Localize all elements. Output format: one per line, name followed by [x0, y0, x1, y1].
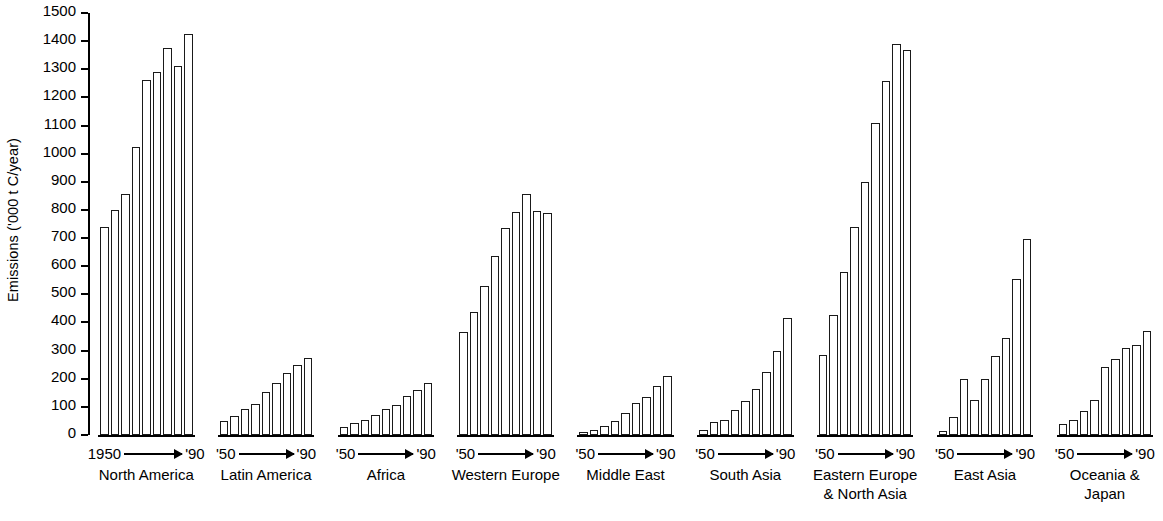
- bar[interactable]: [1023, 239, 1032, 435]
- bar[interactable]: [829, 315, 838, 435]
- bar[interactable]: [522, 194, 531, 435]
- bar[interactable]: [241, 409, 250, 435]
- bar[interactable]: [773, 351, 782, 435]
- bars: [340, 13, 433, 435]
- bar[interactable]: [1111, 359, 1120, 435]
- bar-group: [939, 13, 1032, 435]
- bar[interactable]: [413, 390, 422, 435]
- bar[interactable]: [871, 123, 880, 435]
- bar[interactable]: [480, 286, 489, 435]
- bar[interactable]: [981, 379, 990, 435]
- bar[interactable]: [1059, 424, 1068, 435]
- bar[interactable]: [251, 404, 260, 436]
- bar[interactable]: [600, 426, 609, 435]
- group-baseline: [218, 435, 315, 437]
- bar[interactable]: [642, 397, 651, 435]
- bar[interactable]: [163, 48, 172, 435]
- bars: [819, 13, 912, 435]
- bar[interactable]: [403, 396, 412, 435]
- bar[interactable]: [293, 365, 302, 435]
- range-start-label: '50: [336, 444, 356, 463]
- bar[interactable]: [543, 213, 552, 435]
- bar[interactable]: [132, 147, 141, 435]
- bar[interactable]: [1080, 411, 1089, 435]
- region-name: Oceania & Japan: [1030, 465, 1163, 503]
- y-tick-label: 1200: [28, 86, 76, 103]
- bar[interactable]: [840, 272, 849, 435]
- bar[interactable]: [272, 383, 281, 435]
- bar[interactable]: [304, 358, 313, 435]
- bar[interactable]: [382, 409, 391, 435]
- bar[interactable]: [512, 212, 521, 435]
- bar[interactable]: [184, 34, 193, 435]
- bar[interactable]: [470, 312, 479, 435]
- bar[interactable]: [340, 427, 349, 435]
- y-tick: 100: [81, 406, 88, 408]
- bar[interactable]: [731, 410, 740, 435]
- bar[interactable]: [142, 80, 151, 435]
- bar[interactable]: [262, 392, 271, 435]
- bar[interactable]: [653, 386, 662, 435]
- bar[interactable]: [121, 194, 130, 435]
- bar[interactable]: [111, 210, 120, 435]
- bar[interactable]: [892, 44, 901, 435]
- bar[interactable]: [632, 403, 641, 435]
- bar[interactable]: [1090, 400, 1099, 435]
- bar[interactable]: [1002, 338, 1011, 435]
- bar[interactable]: [611, 421, 620, 435]
- bar[interactable]: [752, 389, 761, 435]
- bar[interactable]: [1012, 279, 1021, 435]
- y-tick: 700: [81, 237, 88, 239]
- bar[interactable]: [392, 405, 401, 435]
- bars: [459, 13, 552, 435]
- y-tick-label: 600: [28, 255, 76, 272]
- bar[interactable]: [230, 416, 239, 435]
- bar[interactable]: [970, 400, 979, 435]
- bar[interactable]: [720, 420, 729, 435]
- bar[interactable]: [220, 421, 229, 435]
- bar[interactable]: [1143, 331, 1152, 435]
- bar[interactable]: [371, 415, 380, 435]
- group-baseline: [338, 435, 435, 437]
- bar[interactable]: [949, 417, 958, 435]
- bar[interactable]: [153, 72, 162, 435]
- bar[interactable]: [783, 318, 792, 435]
- bar[interactable]: [991, 356, 1000, 435]
- bar[interactable]: [350, 423, 359, 435]
- bar-group: [340, 13, 433, 435]
- bar[interactable]: [501, 228, 510, 435]
- y-tick: 1100: [81, 125, 88, 127]
- bar[interactable]: [861, 182, 870, 435]
- bar[interactable]: [100, 227, 109, 435]
- emissions-bar-chart: Emissions ('000 t C/year) 01002003004005…: [0, 0, 1163, 521]
- bar[interactable]: [1069, 420, 1078, 435]
- bar[interactable]: [960, 379, 969, 435]
- bar[interactable]: [1132, 345, 1141, 435]
- bar[interactable]: [903, 50, 912, 435]
- bar[interactable]: [459, 332, 468, 435]
- bar[interactable]: [491, 256, 500, 435]
- bar[interactable]: [663, 376, 672, 435]
- arrow-right-icon: [358, 449, 413, 458]
- bar[interactable]: [533, 211, 542, 435]
- bar[interactable]: [174, 66, 183, 435]
- bar[interactable]: [283, 373, 292, 435]
- bar[interactable]: [361, 420, 370, 435]
- bar[interactable]: [850, 227, 859, 435]
- bar[interactable]: [762, 372, 771, 435]
- bar[interactable]: [621, 413, 630, 436]
- plot-area: 0100200300400500600700800900100011001200…: [88, 13, 1151, 435]
- y-tick-label: 300: [28, 340, 76, 357]
- y-tick-label: 1100: [28, 115, 76, 132]
- bar[interactable]: [710, 422, 719, 435]
- y-tick-label: 0: [28, 424, 76, 441]
- range-start-label: '50: [216, 444, 236, 463]
- bar[interactable]: [882, 81, 891, 435]
- bar[interactable]: [741, 401, 750, 435]
- bar[interactable]: [819, 355, 828, 435]
- bar[interactable]: [1101, 367, 1110, 435]
- arrow-right-icon: [838, 449, 893, 458]
- bar[interactable]: [1122, 348, 1131, 435]
- bar[interactable]: [424, 383, 433, 435]
- group-baseline: [1057, 435, 1154, 437]
